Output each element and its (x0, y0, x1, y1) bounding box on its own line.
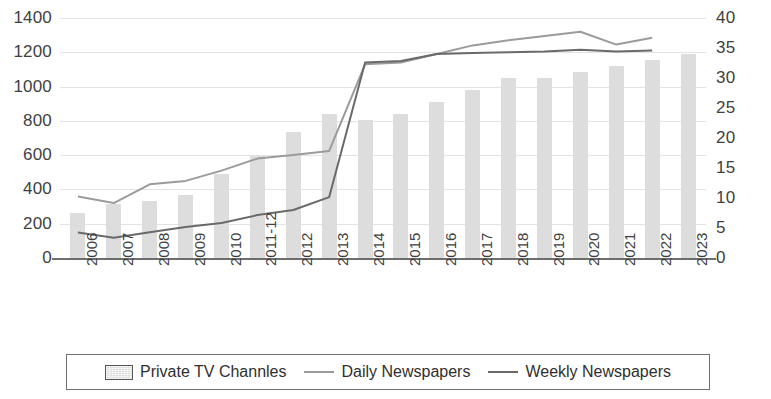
x-axis-tick-label: 2013 (335, 233, 350, 266)
legend-item-daily-newspapers[interactable]: Daily Newspapers (304, 364, 470, 380)
x-axis-tick-label: 2015 (407, 233, 422, 266)
bar-swatch-icon (105, 365, 133, 380)
x-axis-tick-label: 2010 (228, 233, 243, 266)
x-axis-tick-label: 2019 (551, 233, 566, 266)
x-axis-tick-label: 2021 (622, 233, 637, 266)
legend-label: Weekly Newspapers (525, 364, 671, 380)
legend-item-private-tv-channles[interactable]: Private TV Channles (105, 364, 286, 380)
x-axis-tick-label: 2006 (84, 233, 99, 266)
x-axis-tick-labels: 200620072008200920102011-122012201320142… (0, 0, 771, 399)
legend-label: Private TV Channles (140, 364, 286, 380)
x-axis-tick-label: 2008 (156, 233, 171, 266)
legend-item-weekly-newspapers[interactable]: Weekly Newspapers (488, 364, 671, 380)
x-axis-tick-label: 2011-12 (263, 212, 278, 266)
x-axis-tick-label: 2014 (371, 233, 386, 266)
chart-container: 0200400600800100012001400 05101520253035… (0, 0, 771, 399)
x-axis-tick-label: 2023 (694, 233, 709, 266)
line-swatch-icon (304, 371, 334, 373)
x-axis-tick-label: 2017 (479, 233, 494, 266)
x-axis-tick-label: 2020 (586, 233, 601, 266)
x-axis-tick-label: 2018 (515, 233, 530, 266)
x-axis-tick-label: 2009 (192, 233, 207, 266)
legend-label: Daily Newspapers (341, 364, 470, 380)
x-axis-tick-label: 2022 (658, 233, 673, 266)
chart-legend: Private TV Channles Daily Newspapers Wee… (66, 354, 710, 390)
line-swatch-icon (488, 371, 518, 373)
x-axis-tick-label: 2016 (443, 233, 458, 266)
x-axis-tick-label: 2007 (120, 233, 135, 266)
x-axis-tick-label: 2012 (299, 233, 314, 266)
